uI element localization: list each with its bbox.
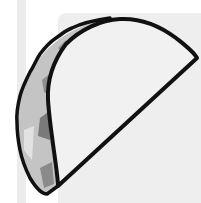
taco-image [0, 0, 201, 203]
